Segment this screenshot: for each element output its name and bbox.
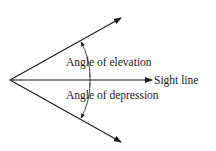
angle-diagram: Angle of elevation Sight line Angle of d… xyxy=(0,0,216,151)
sight-line-label: Sight line xyxy=(154,74,198,87)
elevation-label: Angle of elevation xyxy=(66,56,152,69)
upper-ray xyxy=(10,18,121,80)
depression-label: Angle of depression xyxy=(66,89,159,102)
